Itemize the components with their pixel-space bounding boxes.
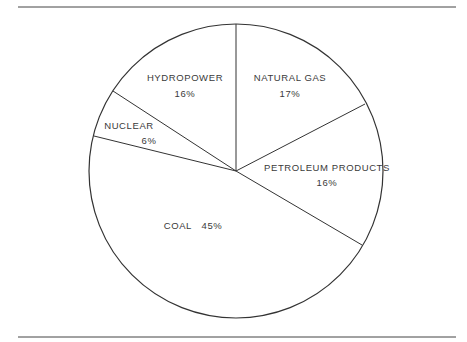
divider-petroleum-coal [236, 171, 362, 245]
slice-value-coal: 45% [202, 220, 223, 231]
slice-value-hydropower: 16% [175, 88, 196, 99]
slice-value-petroleum: 16% [317, 177, 338, 188]
divider-gas-petroleum [236, 104, 365, 171]
slice-label-nuclear: NUCLEAR [104, 120, 154, 131]
slice-label-coal: COAL [164, 220, 192, 231]
slice-value-nuclear: 6% [142, 135, 157, 146]
slice-label-petroleum: PETROLEUM PRODUCTS [264, 162, 390, 173]
slice-label-natural-gas: NATURAL GAS [254, 72, 327, 83]
slice-label-hydropower: HYDROPOWER [147, 72, 223, 83]
pie-chart: NATURAL GAS 17% PETROLEUM PRODUCTS 16% C… [0, 0, 467, 342]
divider-nuclear-hydro [113, 91, 236, 171]
divider-coal-nuclear [94, 136, 236, 171]
slice-value-natural-gas: 17% [280, 88, 301, 99]
